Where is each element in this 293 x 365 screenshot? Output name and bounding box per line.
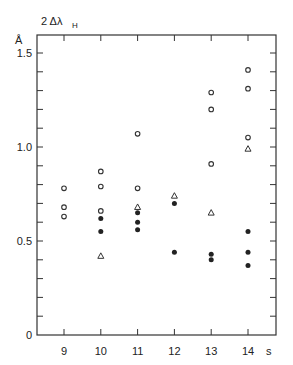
open-circle-point: [99, 209, 104, 214]
x-tick-label: 14: [242, 345, 254, 357]
plot-frame: [37, 35, 276, 335]
open-triangle-point: [98, 253, 104, 259]
open-triangle-point: [171, 193, 177, 199]
filled-circle-point: [172, 201, 177, 206]
y-tick-label: 1.5: [17, 47, 32, 59]
x-tick-label: 11: [132, 345, 143, 357]
filled-circle-point: [135, 210, 140, 215]
y-axis-label-subscript: H: [72, 21, 78, 30]
filled-circle-point: [246, 229, 251, 234]
x-tick-label: 13: [205, 345, 217, 357]
filled-circle-point: [246, 250, 251, 255]
x-tick-label: 10: [95, 345, 107, 357]
open-circle-point: [99, 169, 104, 174]
filled-circle-point: [98, 216, 103, 221]
y-axis-title: 2 Δλ H Å: [15, 15, 78, 46]
open-circle-point: [62, 186, 67, 191]
filled-circle-point: [98, 229, 103, 234]
y-axis-unit: Å: [15, 34, 23, 46]
open-circle-point: [62, 214, 67, 219]
open-circle-point: [99, 184, 104, 189]
scatter-chart: 2 Δλ H Å 00.51.01.5 91011121314 s: [0, 0, 293, 365]
filled-circle-point: [135, 220, 140, 225]
open-circle-point: [246, 86, 251, 91]
x-tick-label: 9: [61, 345, 67, 357]
filled-circle-point: [246, 263, 251, 268]
open-circle-point: [209, 162, 214, 167]
y-tick-label: 1.0: [17, 141, 32, 153]
open-circle-point: [209, 90, 214, 95]
filled-circle-point: [209, 257, 214, 262]
open-circle-point: [246, 135, 251, 140]
x-tick-label: 12: [168, 345, 180, 357]
filled-circle-point: [172, 250, 177, 255]
axis-ticks: [37, 35, 276, 335]
open-triangle-point: [135, 204, 141, 210]
open-circle-point: [209, 107, 214, 112]
x-tick-labels: 91011121314: [61, 345, 254, 357]
filled-circle-point: [209, 252, 214, 257]
open-triangle-point: [245, 146, 251, 152]
open-triangle-point: [208, 210, 214, 216]
y-tick-label: 0: [26, 329, 32, 341]
filled-circle-point: [135, 227, 140, 232]
x-axis-label: s: [266, 345, 272, 357]
y-tick-labels: 00.51.01.5: [17, 47, 32, 341]
open-circle-point: [246, 68, 251, 73]
open-circle-point: [62, 205, 67, 210]
open-circle-point: [135, 186, 140, 191]
y-axis-label: 2 Δλ: [41, 15, 63, 27]
open-circle-point: [135, 132, 140, 137]
y-tick-label: 0.5: [17, 235, 32, 247]
data-points: [62, 68, 251, 268]
